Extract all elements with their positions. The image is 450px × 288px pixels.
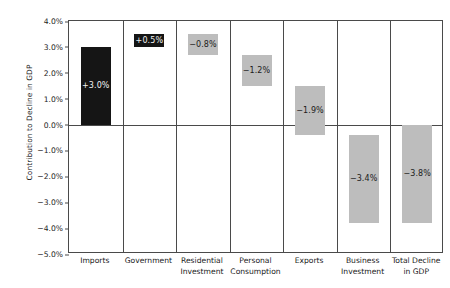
- y-axis-tick-label: 4.0%: [44, 17, 69, 26]
- y-axis-tick-label: −4.0%: [37, 224, 69, 233]
- bar-value-label: −1.2%: [243, 66, 271, 75]
- x-axis-label-line: Total Decline: [389, 256, 443, 267]
- x-axis-label-personal-consumption: PersonalConsumption: [229, 256, 283, 277]
- panel-separator: [390, 21, 391, 252]
- x-axis-label-residential-investment: ResidentialInvestment: [175, 256, 229, 277]
- y-axis-tick-label: −1.0%: [37, 146, 69, 155]
- x-axis-label-line: Consumption: [229, 267, 283, 278]
- panel-separator: [337, 21, 338, 252]
- x-axis-label-government: Government: [122, 256, 176, 267]
- panel-separator: [176, 21, 177, 252]
- y-axis-tick-label: −2.0%: [37, 172, 69, 181]
- y-axis-tick-label: 0.0%: [44, 120, 69, 129]
- bar-business-investment: −3.4%: [349, 135, 379, 223]
- panel-separator: [283, 21, 284, 252]
- bar-value-label: +0.5%: [136, 36, 164, 45]
- y-axis-tick-label: −5.0%: [37, 250, 69, 259]
- x-axis-label-line: in GDP: [389, 267, 443, 278]
- x-axis-label-business-investment: BusinessInvestment: [336, 256, 390, 277]
- x-axis-label-exports: Exports: [282, 256, 336, 267]
- bar-residential-investment: −0.8%: [188, 34, 218, 55]
- bar-exports: −1.9%: [295, 86, 325, 135]
- bar-personal-consumption: −1.2%: [242, 55, 272, 86]
- x-axis-label-total-decline-in-gdp: Total Declinein GDP: [389, 256, 443, 277]
- panel-separator: [230, 21, 231, 252]
- panel-separator: [123, 21, 124, 252]
- bar-value-label: −1.9%: [296, 106, 324, 115]
- x-axis-label-line: Imports: [68, 256, 122, 267]
- x-axis-label-imports: Imports: [68, 256, 122, 267]
- x-axis-label-line: Exports: [282, 256, 336, 267]
- x-axis-label-line: Government: [122, 256, 176, 267]
- y-axis-tick-label: −3.0%: [37, 198, 69, 207]
- x-axis-label-line: Business: [336, 256, 390, 267]
- x-axis-label-line: Investment: [336, 267, 390, 278]
- bar-government: +0.5%: [134, 34, 164, 47]
- x-axis-label-line: Residential: [175, 256, 229, 267]
- x-axis-label-line: Investment: [175, 267, 229, 278]
- bar-total-decline-in-gdp: −3.8%: [402, 125, 432, 223]
- bar-value-label: −0.8%: [189, 40, 217, 49]
- waterfall-chart: Contribution to Decline in GDP 4.0%3.0%2…: [0, 0, 450, 288]
- bar-value-label: −3.8%: [403, 169, 431, 178]
- y-axis-tick-label: 3.0%: [44, 42, 69, 51]
- bar-value-label: +3.0%: [82, 81, 110, 90]
- zero-baseline: [69, 125, 442, 126]
- y-axis-title: Contribution to Decline in GDP: [25, 28, 34, 218]
- x-axis-label-line: Personal: [229, 256, 283, 267]
- y-axis-tick-label: 1.0%: [44, 94, 69, 103]
- y-axis-tick-label: 2.0%: [44, 68, 69, 77]
- bar-imports: +3.0%: [81, 47, 111, 125]
- bar-value-label: −3.4%: [350, 174, 378, 183]
- plot-area: 4.0%3.0%2.0%1.0%0.0%−1.0%−2.0%−3.0%−4.0%…: [68, 20, 443, 253]
